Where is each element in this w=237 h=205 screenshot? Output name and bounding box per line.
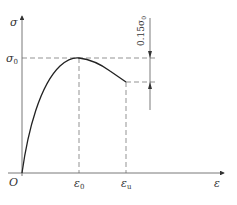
peak-strain-label: ε0 [74, 177, 84, 191]
drop-arrow-bottom [148, 82, 152, 89]
x-axis-label: ε [214, 177, 220, 190]
stress-strain-curve [22, 58, 126, 173]
stress-strain-diagram: σ ε O σ0 ε0 εu 0.15σ0 [0, 0, 237, 205]
ultimate-strain-label: εu [121, 177, 132, 191]
origin-label: O [9, 176, 18, 189]
y-axis-label: σ [10, 16, 18, 29]
peak-stress-label: σ0 [6, 52, 18, 66]
drop-arrow-top [148, 51, 152, 58]
drop-annotation-label: 0.15σ0 [136, 16, 147, 46]
